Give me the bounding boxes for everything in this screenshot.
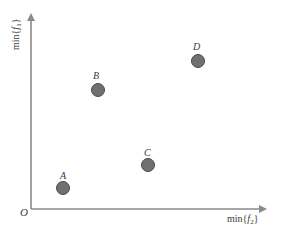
point-b-marker [92, 84, 105, 97]
point-d: D [192, 41, 205, 68]
x-axis-label: min{f2} [227, 213, 258, 226]
origin-label: O [20, 206, 28, 218]
y-axis-label: min{f1} [10, 19, 23, 50]
point-c-label: C [144, 147, 151, 158]
point-c: C [142, 147, 155, 172]
point-b-label: B [93, 70, 99, 81]
scatter-chart: O min{f1} min{f2} A B C D [0, 0, 281, 237]
point-d-label: D [192, 41, 201, 52]
point-c-marker [142, 159, 155, 172]
point-d-marker [192, 55, 205, 68]
point-a-marker [57, 182, 70, 195]
point-b: B [92, 70, 105, 97]
point-a: A [57, 170, 70, 195]
point-a-label: A [59, 170, 67, 181]
